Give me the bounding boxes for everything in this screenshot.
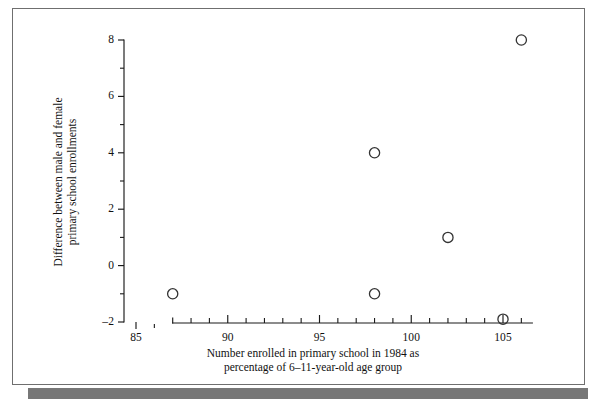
x-axis-title: Number enrolled in primary school in 198… <box>148 346 478 374</box>
x-axis-title-line1: Number enrolled in primary school in 198… <box>148 346 478 360</box>
y-axis-title-line1: Difference between male and female <box>51 52 65 312</box>
y-axis-title: Difference between male and female prima… <box>51 52 79 312</box>
figure-root: –202468859095100105 Number enrolled in p… <box>0 0 598 414</box>
figure-frame <box>12 8 585 385</box>
y-axis-title-line2: primary school enrollments <box>65 52 79 312</box>
figure-shadow-bar <box>28 388 588 399</box>
x-axis-title-line2: percentage of 6–11-year-old age group <box>148 360 478 374</box>
